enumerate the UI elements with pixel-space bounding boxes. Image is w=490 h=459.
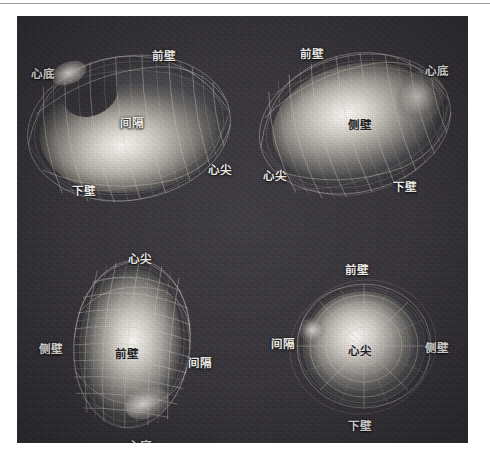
label-anterior-wall: 前壁 — [300, 48, 323, 60]
label-anterior-wall: 前壁 — [152, 50, 175, 62]
label-lateral-wall: 侧壁 — [39, 343, 62, 355]
label-septum: 间隔 — [188, 357, 211, 369]
label-apex: 心尖 — [348, 345, 371, 357]
label-apex: 心尖 — [263, 170, 286, 182]
top-divider-rule — [0, 3, 490, 4]
label-septum: 间隔 — [271, 338, 294, 350]
view-apical-short-axis: 前壁 间隔 心尖 侧壁 下壁 — [247, 226, 468, 443]
label-anterior-wall: 前壁 — [115, 348, 138, 360]
label-cardiac-base: 心底 — [31, 68, 54, 80]
label-inferior-wall: 下壁 — [348, 420, 371, 432]
label-apex: 心尖 — [128, 253, 151, 265]
wireframe-mesh — [247, 226, 468, 443]
label-lateral-wall: 侧壁 — [425, 342, 448, 354]
label-lateral-wall: 侧壁 — [348, 119, 371, 131]
figure-plate: 心底 前壁 间隔 心尖 下壁 — [17, 16, 468, 443]
figure-page: 心底 前壁 间隔 心尖 下壁 — [0, 0, 490, 459]
view-septal-long-axis: 心底 前壁 间隔 心尖 下壁 — [17, 16, 247, 226]
label-cardiac-base: 心底 — [128, 440, 151, 443]
label-anterior-wall: 前壁 — [345, 264, 368, 276]
label-inferior-wall: 下壁 — [72, 185, 95, 197]
label-apex: 心尖 — [208, 164, 231, 176]
label-septum: 间隔 — [120, 117, 143, 129]
label-inferior-wall: 下壁 — [393, 181, 416, 193]
view-lateral-long-axis: 前壁 心底 侧壁 心尖 下壁 — [247, 16, 468, 226]
label-cardiac-base: 心底 — [425, 65, 448, 77]
view-anterior-long-axis: 心尖 侧壁 前壁 间隔 心底 — [17, 226, 247, 443]
